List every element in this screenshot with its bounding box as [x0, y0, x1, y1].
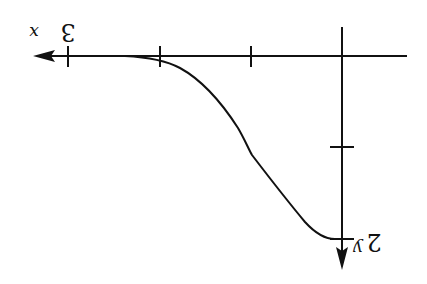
- y-axis-label: y: [353, 239, 364, 259]
- y-axis: [330, 27, 354, 270]
- y-tick-value-label: 2: [366, 228, 381, 256]
- function-curve: [125, 56, 335, 239]
- graph-diagram: x 3 y 2: [0, 0, 427, 284]
- x-tick-value-label: 3: [60, 18, 75, 46]
- x-axis-label: x: [29, 23, 39, 43]
- x-axis: [33, 46, 407, 67]
